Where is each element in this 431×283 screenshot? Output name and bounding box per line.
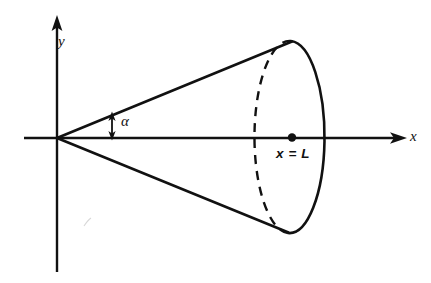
base-center-dot [288, 133, 296, 141]
y-axis-label: y [58, 34, 65, 49]
scan-artifact [84, 218, 91, 226]
cone-upper-edge [57, 42, 292, 139]
half-angle-label: α [121, 114, 129, 129]
cone-lower-edge [57, 138, 289, 233]
cone-figure: y x α x = L [0, 0, 431, 283]
x-axis-label: x [410, 129, 417, 144]
base-position-label: x = L [276, 147, 310, 161]
